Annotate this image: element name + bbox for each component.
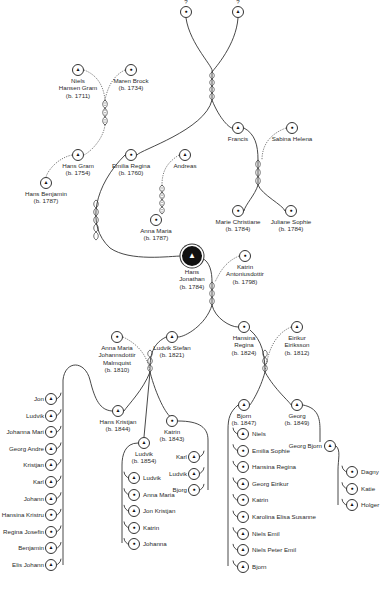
triangle-male-icon: ▲ [295,402,300,407]
female-person-node[interactable]: ● [150,214,162,226]
dot-female-icon: ● [192,488,195,493]
person-label: HansinaRegina(b. 1824) [232,334,257,356]
male-person-node[interactable]: ▲ [128,472,140,484]
female-person-node[interactable]: ● [232,205,244,217]
male-person-node[interactable]: ▲ [45,559,57,571]
female-person-node[interactable]: ● [239,250,251,262]
male-person-node[interactable]: ▲ [237,528,249,540]
dot-female-icon: ● [241,514,244,519]
female-person-node[interactable]: ● [166,415,178,427]
person-label: Karolina Elisa Susanne [252,513,316,520]
female-person-node[interactable]: ● [125,149,137,161]
male-person-node[interactable]: ▲ [45,393,57,405]
male-person-node[interactable]: ▲ [166,331,178,343]
male-person-node[interactable]: ▲ [237,478,249,490]
male-person-node[interactable]: ▲ [45,476,57,488]
male-person-node[interactable]: ▲ [237,561,249,573]
male-person-node[interactable]: ▲ [291,399,303,411]
parent-child-links [57,18,346,567]
person-label: Dagny [361,468,379,475]
sibling-connector [200,467,204,473]
male-person-node[interactable]: ▲ [188,451,200,463]
triangle-male-icon: ▲ [241,531,246,536]
sibling-connector [57,443,61,449]
male-person-node[interactable]: ▲ [238,399,250,411]
dot-female-icon: ● [350,469,353,474]
male-person-node[interactable]: ▲ [45,410,57,422]
sibling-connector [57,509,61,515]
dot-female-icon: ● [49,529,52,534]
triangle-male-icon: ▲ [49,396,54,401]
person-label: Maren Brock(b. 1734) [113,77,148,92]
triangle-male-icon: ▲ [242,402,247,407]
dot-female-icon: ● [129,67,132,72]
male-person-node[interactable]: ▲ [112,405,124,417]
female-person-node[interactable]: ● [237,445,249,457]
sibling-connector [57,393,61,399]
male-person-node[interactable]: ▲ [237,428,249,440]
descent-line [244,185,258,211]
triangle-male-icon: ▲ [241,431,246,436]
person-label: Georg Eirikur [252,480,288,487]
person-label: Ludvik [26,412,44,419]
male-person-node[interactable]: ▲ [291,321,303,333]
male-person-node[interactable]: ▲ [45,443,57,455]
person-label: Emilia Regina(b. 1760) [112,162,150,177]
person-label: Anna Maria(b. 1787) [140,227,172,242]
triangle-male-icon: ▲ [236,9,241,14]
person-label: Marie Christiane(b. 1784) [215,218,260,233]
female-person-node[interactable]: ● [286,122,298,134]
male-person-node[interactable]: ▲ [72,149,84,161]
triangle-male-icon: ▲ [49,413,54,418]
dot-female-icon: ● [49,513,52,518]
person-label: Niels Peter Emil [252,546,296,553]
person-label: Anna Maria [143,491,175,498]
male-person-node[interactable]: ▲ [45,493,57,505]
female-person-node[interactable]: ● [238,321,250,333]
person-label: Hans Gram(b. 1754) [62,162,94,177]
female-person-node[interactable]: ● [180,6,192,18]
dot-female-icon: ● [132,542,135,547]
person-label: Emilia Sophie [252,447,290,454]
person-label: HansJonathan(b. 1784) [179,268,204,290]
male-person-node[interactable]: ▲ [179,149,191,161]
male-person-node[interactable]: ▲ [324,440,336,452]
person-label: ? [184,0,187,5]
female-person-node[interactable]: ● [285,205,297,217]
male-person-node[interactable]: ▲ [188,468,200,480]
person-label: EirikurEiriksson(b. 1812) [284,334,309,356]
female-person-node[interactable]: ● [237,511,249,523]
female-person-node[interactable]: ● [45,526,57,538]
triangle-male-icon: ▲ [49,546,54,551]
triangle-male-icon: ▲ [132,475,137,480]
male-person-node[interactable]: ▲ [232,122,244,134]
person-label: Johann [24,495,44,502]
triangle-male-icon: ▲ [241,548,246,553]
person-label: Johanna [143,540,167,547]
person-label: Hansina Regina [252,463,296,470]
sibling-connector [57,426,61,432]
dot-female-icon: ● [243,253,246,258]
person-label: Jon Kristjan [143,507,175,514]
female-person-node[interactable]: ● [346,483,358,495]
sibling-connector [200,451,204,457]
male-person-node[interactable]: ▲ [232,6,244,18]
female-person-node[interactable]: ● [346,466,358,478]
person-label: Niels Emil [252,530,280,537]
triangle-male-icon: ▲ [142,440,147,445]
female-person-node[interactable]: ● [125,64,137,76]
female-person-node[interactable]: ● [111,331,123,343]
male-person-node[interactable]: ▲ [40,177,52,189]
person-label: Holger [361,501,379,508]
person-label: Ludvik [169,470,187,477]
partner-line [262,128,286,160]
female-person-node[interactable]: ● [128,489,140,501]
male-person-node[interactable]: ▲ [182,246,202,266]
male-person-node[interactable]: ▲ [72,64,84,76]
female-person-node[interactable]: ● [128,522,140,534]
male-person-node[interactable]: ▲ [138,437,150,449]
person-label: Ludvik(b. 1854) [132,450,157,465]
triangle-male-icon: ▲ [241,481,246,486]
person-label: Niels [252,430,266,437]
triangle-male-icon: ▲ [49,446,54,451]
